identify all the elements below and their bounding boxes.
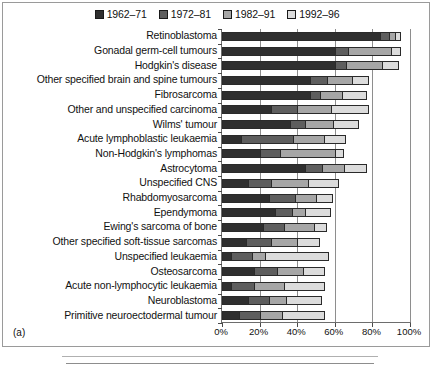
category-label: Other specified soft-tissue sarcomas bbox=[53, 236, 217, 247]
y-tick-mark bbox=[218, 176, 222, 177]
bar-segment bbox=[222, 47, 335, 56]
value-axis-line bbox=[222, 322, 411, 323]
category-axis-labels: RetinoblastomaGonadal germ-cell tumoursH… bbox=[3, 29, 221, 323]
bar-segment bbox=[222, 223, 263, 232]
category-label: Neuroblastoma bbox=[148, 295, 217, 306]
bar-segment bbox=[241, 135, 294, 144]
bar-segment bbox=[314, 223, 327, 232]
bar-row bbox=[222, 311, 325, 320]
bar-segment bbox=[265, 252, 329, 261]
bar-segment bbox=[310, 76, 327, 85]
category-label: Hodgkin's disease bbox=[135, 60, 217, 71]
y-tick-mark bbox=[218, 58, 222, 59]
bar-segment bbox=[222, 61, 335, 70]
bar-segment bbox=[382, 61, 399, 70]
gridline bbox=[335, 29, 336, 323]
y-tick-mark bbox=[218, 205, 222, 206]
bar-segment bbox=[284, 282, 325, 291]
bar-segment bbox=[275, 208, 292, 217]
bar-segment bbox=[231, 252, 252, 261]
category-label: Ependymoma bbox=[154, 207, 217, 218]
category-label: Non-Hodgkin's lymphomas bbox=[95, 148, 217, 159]
category-label: Unspecified CNS bbox=[139, 177, 217, 188]
bottom-divider-secondary bbox=[66, 363, 374, 364]
bar-segment bbox=[310, 91, 319, 100]
y-tick-mark bbox=[218, 73, 222, 74]
bar-segment bbox=[222, 91, 310, 100]
bar-segment bbox=[346, 61, 382, 70]
bar-row bbox=[222, 61, 399, 70]
bar-segment bbox=[222, 164, 305, 173]
bar-segment bbox=[222, 208, 275, 217]
bar-segment bbox=[320, 91, 343, 100]
bar-segment bbox=[269, 194, 295, 203]
bars-inner bbox=[222, 29, 410, 323]
y-tick-mark bbox=[218, 132, 222, 133]
bar-segment bbox=[222, 282, 231, 291]
bar-row bbox=[222, 47, 401, 56]
y-tick-mark bbox=[218, 294, 222, 295]
y-tick-mark bbox=[218, 220, 222, 221]
bar-row bbox=[222, 223, 327, 232]
category-label: Rhabdomyosarcoma bbox=[123, 192, 217, 203]
x-axis-tick-label: 0% bbox=[214, 326, 228, 337]
y-tick-mark bbox=[218, 103, 222, 104]
bar-segment bbox=[344, 164, 367, 173]
bottom-divider bbox=[62, 356, 378, 357]
bar-row bbox=[222, 179, 339, 188]
y-tick-mark bbox=[218, 279, 222, 280]
y-tick-mark bbox=[218, 88, 222, 89]
bar-segment bbox=[269, 296, 286, 305]
bar-segment bbox=[295, 194, 316, 203]
y-tick-mark bbox=[218, 147, 222, 148]
bar-segment bbox=[239, 311, 260, 320]
bar-segment bbox=[380, 32, 389, 41]
bar-segment bbox=[293, 135, 323, 144]
legend-swatch-icon bbox=[287, 10, 296, 19]
gridline bbox=[372, 29, 373, 323]
bar-segment bbox=[335, 149, 344, 158]
y-tick-mark bbox=[218, 161, 222, 162]
bar-row bbox=[222, 238, 320, 247]
bar-segment bbox=[254, 282, 284, 291]
category-label: Other specified brain and spine tumours bbox=[37, 74, 217, 85]
y-tick-mark bbox=[218, 191, 222, 192]
y-tick-mark bbox=[218, 44, 222, 45]
bar-segment bbox=[391, 47, 400, 56]
category-label: Wilms' tumour bbox=[153, 119, 217, 130]
x-axis-tick-label: 100% bbox=[397, 326, 421, 337]
bar-segment bbox=[290, 120, 305, 129]
bar-segment bbox=[303, 267, 326, 276]
legend-label: 1992–96 bbox=[299, 8, 339, 20]
bar-segment bbox=[252, 252, 265, 261]
bar-segment bbox=[222, 149, 260, 158]
y-tick-mark bbox=[218, 117, 222, 118]
bar-row bbox=[222, 296, 322, 305]
bar-segment bbox=[222, 311, 239, 320]
category-label: Primitive neuroectodermal tumour bbox=[64, 310, 217, 321]
y-tick-mark bbox=[218, 308, 222, 309]
bar-segment bbox=[335, 61, 346, 70]
bar-segment bbox=[280, 149, 335, 158]
bar-segment bbox=[263, 223, 284, 232]
bar-row bbox=[222, 91, 367, 100]
bar-row bbox=[222, 76, 369, 85]
category-label: Fibrosarcoma bbox=[155, 89, 217, 100]
bar-segment bbox=[222, 296, 248, 305]
bar-row bbox=[222, 252, 329, 261]
bar-segment bbox=[284, 223, 314, 232]
chart-frame: 1962–711972–811982–911992–96 Retinoblast… bbox=[2, 2, 430, 347]
category-label: Astrocytoma bbox=[160, 163, 217, 174]
category-label: Acute lymphoblastic leukaemia bbox=[77, 133, 217, 144]
bar-segment bbox=[222, 238, 246, 247]
bar-segment bbox=[395, 32, 401, 41]
bar-segment bbox=[222, 267, 254, 276]
bar-segment bbox=[305, 208, 331, 217]
bar-segment bbox=[231, 282, 254, 291]
bar-segment bbox=[222, 179, 248, 188]
x-axis-tick-label: 60% bbox=[324, 326, 343, 337]
bar-row bbox=[222, 32, 401, 41]
bar-segment bbox=[342, 91, 366, 100]
bar-segment bbox=[316, 194, 333, 203]
legend-swatch-icon bbox=[223, 10, 232, 19]
